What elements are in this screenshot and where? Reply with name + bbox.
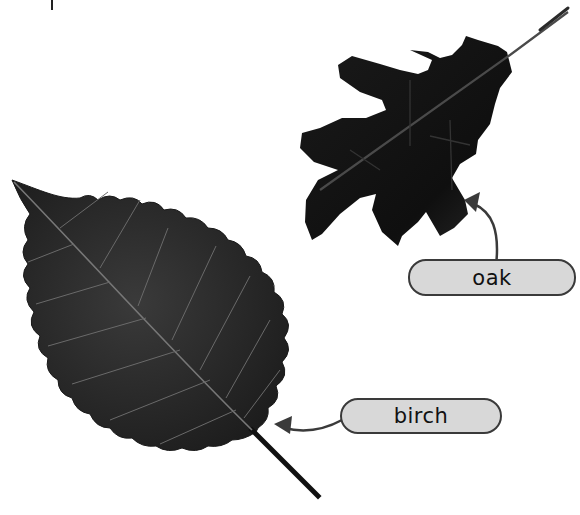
birch-label-text: birch <box>394 404 449 428</box>
oak-arrow <box>464 192 497 266</box>
oak-label: oak <box>408 259 576 296</box>
oak-leaf-image <box>300 8 568 246</box>
birch-label: birch <box>340 398 502 434</box>
birch-arrow <box>274 416 342 434</box>
birch-leaf-image <box>12 180 318 496</box>
leaf-diagram <box>0 0 580 515</box>
oak-label-text: oak <box>472 266 511 290</box>
